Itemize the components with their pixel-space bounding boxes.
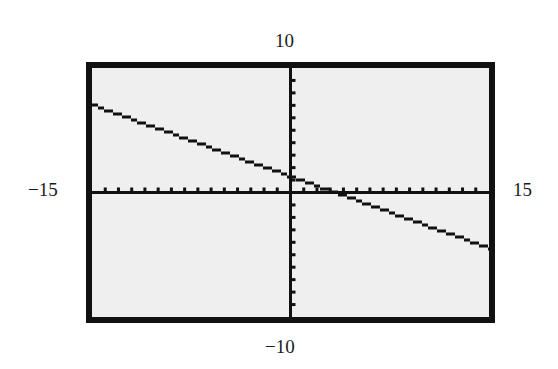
x-tick — [315, 188, 318, 192]
x-tick — [263, 188, 266, 192]
y-tick — [292, 154, 296, 157]
x-tick — [474, 188, 477, 192]
x-tick — [448, 188, 451, 192]
y-tick — [292, 278, 296, 281]
x-tick — [104, 188, 107, 192]
y-tick — [292, 141, 296, 144]
x-tick — [382, 188, 385, 192]
x-tick — [302, 188, 305, 192]
y-tick — [292, 129, 296, 132]
x-tick — [130, 188, 133, 192]
y-tick — [292, 91, 296, 94]
graph-screen — [0, 0, 558, 369]
x-tick — [223, 188, 226, 192]
y-tick — [292, 79, 296, 82]
x-tick — [196, 188, 199, 192]
y-tick — [292, 216, 296, 219]
y-tick — [292, 203, 296, 206]
x-tick — [143, 188, 146, 192]
y-tick — [292, 116, 296, 119]
x-tick — [249, 188, 252, 192]
x-tick — [117, 188, 120, 192]
x-tick — [210, 188, 213, 192]
x-tick — [355, 188, 358, 192]
x-tick — [170, 188, 173, 192]
x-tick — [157, 188, 160, 192]
x-tick — [342, 188, 345, 192]
x-tick — [395, 188, 398, 192]
y-tick — [292, 179, 296, 182]
x-tick — [408, 188, 411, 192]
y-tick — [292, 241, 296, 244]
x-tick — [421, 188, 424, 192]
y-tick — [292, 228, 296, 231]
y-tick — [292, 253, 296, 256]
y-tick — [292, 166, 296, 169]
x-tick — [183, 188, 186, 192]
x-tick — [276, 188, 279, 192]
y-tick — [292, 266, 296, 269]
x-tick — [435, 188, 438, 192]
y-tick — [292, 104, 296, 107]
x-tick — [236, 188, 239, 192]
x-tick — [368, 188, 371, 192]
x-tick — [461, 188, 464, 192]
y-tick — [292, 303, 296, 306]
y-tick — [292, 291, 296, 294]
